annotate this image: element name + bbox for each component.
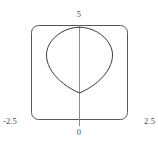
x-min-tick-label: -2.5 xyxy=(3,117,17,126)
origin-tick-label: 0 xyxy=(0,128,158,137)
y-max-tick-label: 5 xyxy=(0,10,158,19)
x-max-tick-label: 2.5 xyxy=(144,117,155,126)
plot-figure: 5 0 -2.5 2.5 xyxy=(0,0,158,149)
